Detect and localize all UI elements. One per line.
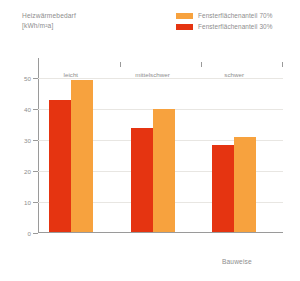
y-axis-title-line1: Heizwärmebedarf (22, 11, 76, 21)
x-axis-tick (282, 62, 283, 67)
y-axis-tick-label: 0 (28, 230, 31, 237)
legend-item-series-1: Fensterflächenanteil 70% (176, 11, 298, 21)
x-axis-tick (120, 62, 121, 67)
y-axis-tick-label: 30 (24, 136, 31, 143)
x-axis-line (38, 232, 283, 233)
x-axis-category-label: leicht (64, 71, 78, 78)
y-axis-title: Heizwärmebedarf [kWh/m²a] (22, 11, 76, 30)
bar-leicht-70 (71, 80, 93, 232)
y-axis-tick-label: 20 (24, 167, 31, 174)
x-axis-category-label: schwer (224, 71, 244, 78)
y-axis-tick (33, 171, 38, 172)
x-axis-category-label: mittelschwer (135, 71, 169, 78)
y-axis-line (38, 58, 39, 233)
legend-item-series-2: Fensterflächenanteil 30% (176, 22, 298, 32)
y-axis-tick-label: 10 (24, 198, 31, 205)
bar-leicht-30 (49, 100, 71, 232)
legend-swatch-icon-series-1 (176, 13, 193, 19)
y-axis-tick-label: 40 (24, 105, 31, 112)
legend-label-series-1: Fensterflächenanteil 70% (198, 12, 273, 19)
y-axis-tick (33, 202, 38, 203)
y-axis-title-line2: [kWh/m²a] (22, 21, 76, 31)
plot-area: 01020304050leichtmittelschwerschwer (38, 62, 283, 233)
bar-schwer-30 (212, 145, 234, 232)
y-axis-tick (33, 78, 38, 79)
chart-legend: Fensterflächenanteil 70% Fensterflächena… (176, 11, 298, 33)
x-axis-title: Bauweise (222, 258, 252, 265)
y-axis-tick (33, 109, 38, 110)
bar-chart: Heizwärmebedarf [kWh/m²a] Fensterflächen… (0, 0, 300, 281)
y-axis-tick-label: 50 (24, 74, 31, 81)
y-axis-tick (33, 233, 38, 234)
legend-label-series-2: Fensterflächenanteil 30% (198, 23, 273, 30)
bar-mittelschwer-30 (131, 128, 153, 232)
bar-mittelschwer-70 (153, 109, 175, 232)
y-axis-tick (33, 140, 38, 141)
x-axis-tick (201, 62, 202, 67)
legend-swatch-icon-series-2 (176, 24, 193, 30)
bar-schwer-70 (234, 137, 256, 232)
